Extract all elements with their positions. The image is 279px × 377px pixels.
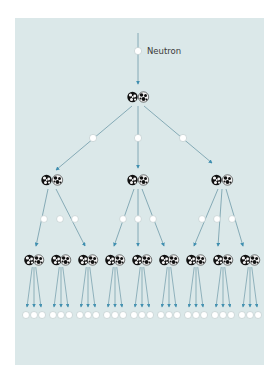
neutron-icon <box>214 216 221 223</box>
fission-chain-reaction-diagram: Neutron <box>0 0 279 377</box>
neutron-icon <box>184 312 191 319</box>
neutron-icon <box>58 312 65 319</box>
neutron-icon <box>157 312 164 319</box>
neutron-icon <box>130 312 137 319</box>
neutron-icon <box>255 312 262 319</box>
neutron-icon <box>112 312 119 319</box>
neutron-icon <box>93 312 100 319</box>
neutron-icon <box>103 312 110 319</box>
neutron-icon <box>193 312 200 319</box>
neutron-icon <box>220 312 227 319</box>
neutron-icon <box>31 312 38 319</box>
neutron-icon <box>41 216 48 223</box>
neutron-icon <box>22 312 29 319</box>
neutron-icon <box>49 312 56 319</box>
neutron-icon <box>66 312 73 319</box>
neutron-icon <box>120 312 127 319</box>
neutron-icon <box>39 312 46 319</box>
neutron-icon <box>229 216 236 223</box>
neutron-icon <box>201 312 208 319</box>
neutron-icon <box>120 216 127 223</box>
neutron-icon <box>135 216 142 223</box>
neutron-icon <box>179 134 186 141</box>
neutron-icon <box>134 134 141 141</box>
neutron-icon <box>89 134 96 141</box>
neutron-icon <box>166 312 173 319</box>
neutron-icon <box>174 312 181 319</box>
neutron-label: Neutron <box>147 46 181 56</box>
neutron-icon <box>57 216 64 223</box>
neutron-icon <box>139 312 146 319</box>
neutron-icon <box>247 312 254 319</box>
neutron-icon <box>76 312 83 319</box>
neutron-icon <box>150 216 157 223</box>
neutron-icon <box>199 216 206 223</box>
neutron-icon <box>211 312 218 319</box>
neutron-icon <box>72 216 79 223</box>
neutron-icon <box>134 47 141 54</box>
neutron-icon <box>228 312 235 319</box>
neutron-icon <box>238 312 245 319</box>
neutron-icon <box>85 312 92 319</box>
neutron-icon <box>147 312 154 319</box>
